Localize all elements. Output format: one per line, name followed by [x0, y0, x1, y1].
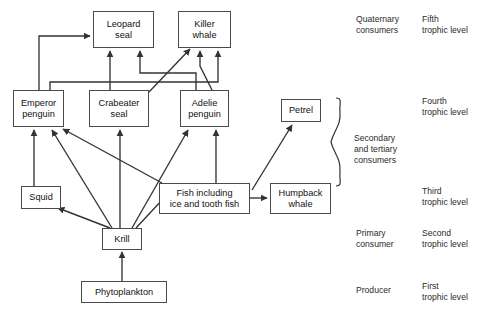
node-label-phytoplankton: Phytoplankton — [93, 287, 155, 298]
trophic-label-second: Second trophic level — [422, 228, 468, 250]
node-label-adelie-penguin: Adelie penguin — [186, 98, 223, 120]
node-humpback-whale[interactable]: Humpback whale — [270, 183, 331, 214]
node-emperor-penguin[interactable]: Emperor penguin — [13, 90, 64, 127]
node-killer-whale[interactable]: Killer whale — [178, 11, 231, 48]
node-adelie-penguin[interactable]: Adelie penguin — [180, 90, 229, 127]
node-label-squid: Squid — [27, 192, 55, 203]
consumer-label-primary: Primary consumer — [356, 228, 394, 250]
node-label-humpback-whale: Humpback whale — [277, 188, 325, 210]
node-krill[interactable]: Krill — [102, 228, 142, 250]
consumer-label-producer: Producer — [356, 285, 391, 296]
edge-fish-to-petrel — [252, 125, 292, 190]
node-petrel[interactable]: Petrel — [281, 99, 321, 122]
node-phytoplankton[interactable]: Phytoplankton — [81, 281, 167, 303]
edge-adelie-penguin-to-leopard-seal — [140, 51, 196, 90]
node-squid[interactable]: Squid — [21, 186, 61, 209]
edge-fish-to-emperor-penguin — [63, 129, 162, 183]
trophic-label-third: Third trophic level — [422, 186, 468, 208]
food-web-diagram: Leopard seal Killer whale Emperor pengui… — [0, 0, 498, 316]
node-label-crabeater-seal: Crabeater seal — [97, 98, 142, 120]
node-label-fish: Fish including ice and tooth fish — [168, 188, 241, 210]
node-leopard-seal[interactable]: Leopard seal — [93, 11, 154, 48]
node-label-emperor-penguin: Emperor penguin — [19, 98, 58, 120]
node-label-killer-whale: Killer whale — [190, 19, 218, 41]
node-label-krill: Krill — [112, 234, 131, 245]
edge-krill-to-emperor-penguin — [52, 130, 112, 228]
secondary-tertiary-brace — [331, 98, 340, 186]
node-label-leopard-seal: Leopard seal — [105, 19, 143, 41]
trophic-label-first: First trophic level — [422, 281, 468, 303]
node-fish[interactable]: Fish including ice and tooth fish — [159, 183, 250, 214]
arrow-connections-layer — [0, 0, 498, 316]
edge-adelie-penguin-to-killer-whale — [200, 51, 212, 90]
edge-emperor-penguin-to-killer-whale — [50, 51, 218, 90]
node-crabeater-seal[interactable]: Crabeater seal — [89, 90, 149, 127]
edge-crabeater-seal-to-killer-whale — [149, 49, 190, 92]
consumer-label-secondary-tertiary: Secondary and tertiary consumers — [354, 133, 397, 166]
consumer-label-quaternary: Quaternary consumers — [356, 14, 399, 36]
node-label-petrel: Petrel — [287, 105, 315, 116]
trophic-label-fourth: Fourth trophic level — [422, 96, 468, 118]
trophic-label-fifth: Fifth trophic level — [422, 14, 468, 36]
